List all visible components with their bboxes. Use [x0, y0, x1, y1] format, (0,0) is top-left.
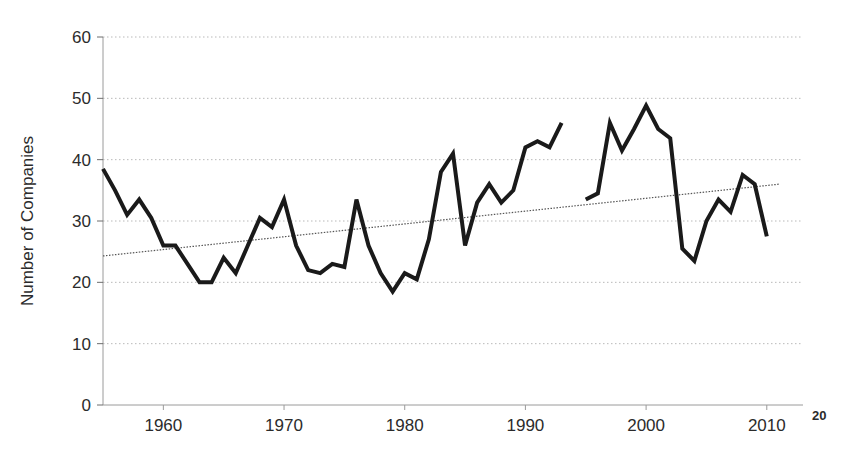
- y-axis-tick-labels: 0102030405060: [72, 28, 91, 415]
- x-tick-label-1980: 1980: [386, 416, 424, 435]
- x-axis-tick-labels: 196019701980199020002010: [144, 416, 785, 435]
- chart-container: 0102030405060 196019701980199020002010 N…: [0, 0, 858, 460]
- x-tick-label-1960: 1960: [144, 416, 182, 435]
- y-axis-title: Number of Companies: [18, 136, 37, 306]
- y-tick-label-60: 60: [72, 28, 91, 47]
- x-tick-label-1970: 1970: [265, 416, 303, 435]
- x-tick-label-2000: 2000: [627, 416, 665, 435]
- y-tick-label-40: 40: [72, 151, 91, 170]
- y-tick-label-0: 0: [82, 396, 91, 415]
- y-axis-ticks: [97, 37, 103, 405]
- x-tick-label-2010: 2010: [748, 416, 786, 435]
- y-tick-label-30: 30: [72, 212, 91, 231]
- x-tick-label-1990: 1990: [506, 416, 544, 435]
- y-tick-label-10: 10: [72, 335, 91, 354]
- line-chart: 0102030405060 196019701980199020002010 N…: [0, 0, 858, 460]
- x-axis-artifact-label: 20: [812, 408, 826, 423]
- y-tick-label-20: 20: [72, 273, 91, 292]
- y-tick-label-50: 50: [72, 89, 91, 108]
- x-axis-ticks: [163, 405, 766, 410]
